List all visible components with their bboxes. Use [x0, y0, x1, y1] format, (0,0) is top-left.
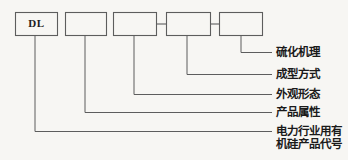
callout-forming-method-label: 成型方式: [276, 68, 320, 81]
leader-line-power-industry-silicone-code: [35, 36, 272, 132]
product-code-diagram: DL 硫化机理 成型方式 外观形态 产品属性 电力行业用有 机硅产品代号: [0, 0, 348, 160]
box-dl-label: DL: [15, 18, 58, 29]
box-4: [167, 13, 211, 36]
callout-vulcanization-mechanism-label: 硫化机理: [276, 46, 320, 59]
callout-power-industry-silicone-code-line2: 机硅产品代号: [276, 138, 342, 151]
leader-line-forming-method: [187, 36, 272, 75]
box-3: [114, 13, 157, 36]
callout-appearance-form-label: 外观形态: [276, 88, 320, 101]
leader-line-vulcanization-mechanism: [241, 36, 272, 53]
callout-product-attribute-label: 产品属性: [276, 106, 320, 119]
box-2: [66, 13, 107, 36]
leader-line-appearance-form: [134, 36, 272, 95]
box-5: [220, 13, 263, 36]
